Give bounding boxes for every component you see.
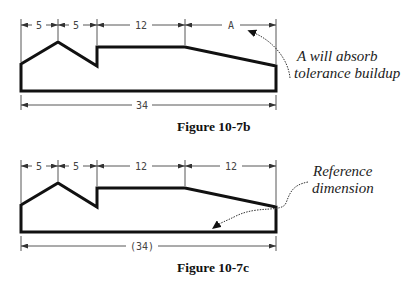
dim-seg1: 5 [36, 161, 42, 172]
chain-dimension: 5 5 12 12 [21, 161, 276, 172]
drawing-canvas: 5 5 12 A 34 A will absorb tolerance buil… [0, 0, 411, 285]
figure-10-7c: 5 5 12 12 (34) Reference dimension Figur… [21, 160, 374, 275]
figure-10-7b: 5 5 12 A 34 A will absorb tolerance buil… [21, 19, 401, 134]
figure-caption: Figure 10-7b [177, 119, 251, 134]
dim-overall: 34 [136, 100, 148, 111]
dim-seg4: 12 [225, 161, 237, 172]
note-line1: A will absorb [296, 48, 378, 64]
dim-seg4: A [228, 20, 234, 31]
note-line2: tolerance buildup [294, 65, 401, 81]
part-outline [21, 183, 276, 232]
dim-seg1: 5 [36, 20, 42, 31]
dim-seg2: 5 [73, 20, 79, 31]
overall-dimension: 34 [21, 100, 276, 111]
dim-seg3: 12 [135, 161, 147, 172]
extension-lines [21, 160, 276, 251]
note-line2: dimension [312, 180, 374, 196]
extension-lines [21, 19, 276, 110]
overall-dimension: (34) [21, 241, 276, 252]
note-leader [252, 32, 290, 78]
dim-seg2: 5 [73, 161, 79, 172]
figure-caption: Figure 10-7c [177, 260, 249, 275]
note-line1: Reference [312, 163, 373, 179]
chain-dimension: 5 5 12 A [21, 20, 276, 31]
dim-seg3: 12 [135, 20, 147, 31]
part-outline [21, 42, 276, 91]
dim-overall-reference: (34) [130, 241, 154, 252]
